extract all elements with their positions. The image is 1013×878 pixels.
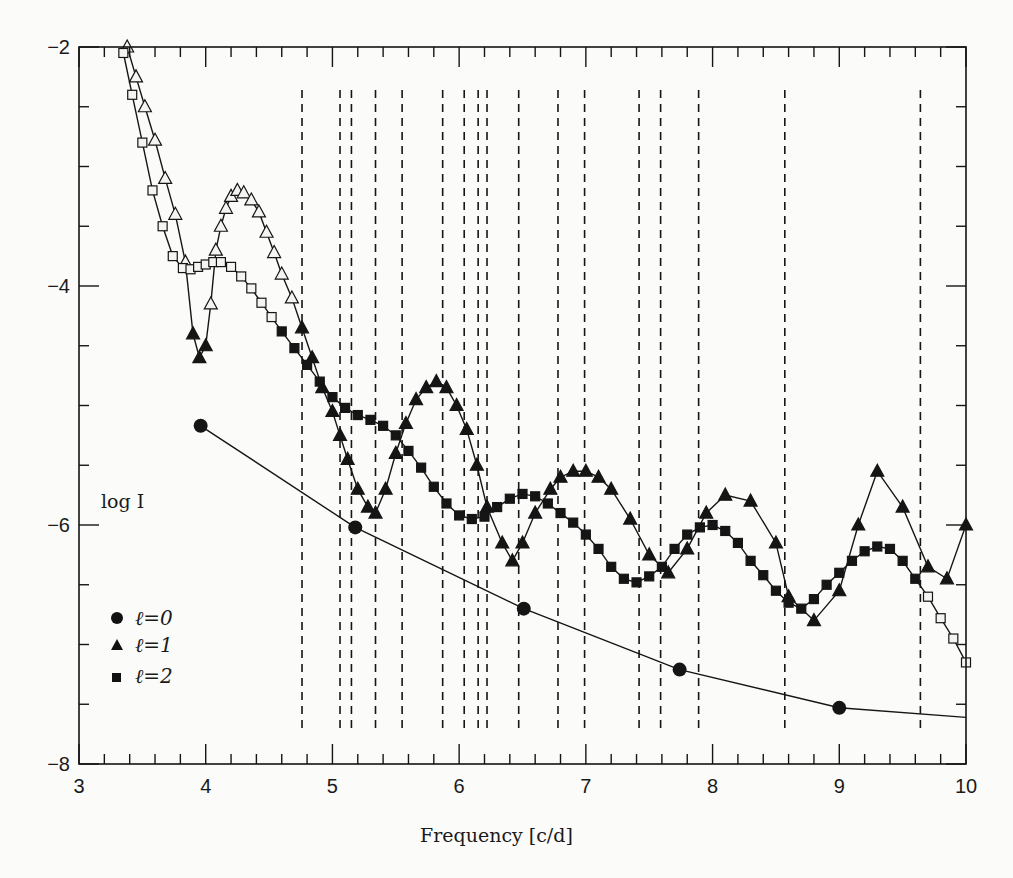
square-marker xyxy=(290,344,299,353)
square-marker xyxy=(237,272,246,281)
square-marker xyxy=(341,403,350,412)
square-marker xyxy=(505,494,514,503)
triangle-marker xyxy=(871,464,884,476)
plot-border xyxy=(79,47,966,764)
y-tick-label: −6 xyxy=(47,514,70,536)
square-marker xyxy=(455,511,464,520)
square-marker xyxy=(670,544,679,553)
triangle-marker xyxy=(852,518,865,530)
square-marker xyxy=(379,421,388,430)
triangle-marker xyxy=(361,500,374,512)
square-marker xyxy=(257,298,266,307)
square-marker xyxy=(216,258,225,267)
square-marker xyxy=(442,499,451,508)
square-marker xyxy=(119,48,128,57)
square-marker xyxy=(632,578,641,587)
triangle-marker xyxy=(470,458,483,470)
square-marker xyxy=(847,556,856,565)
triangle-marker xyxy=(159,171,172,183)
observed-frequency-lines xyxy=(302,90,920,732)
square-marker xyxy=(784,598,793,607)
square-marker xyxy=(594,544,603,553)
square-marker xyxy=(404,446,413,455)
square-marker xyxy=(619,574,628,583)
triangle-marker xyxy=(130,70,143,82)
circle-marker xyxy=(194,419,208,433)
y-tick-label: −8 xyxy=(47,753,70,775)
square-marker xyxy=(128,90,137,99)
square-marker xyxy=(417,463,426,472)
square-marker xyxy=(657,562,666,571)
x-tick-label: 10 xyxy=(955,775,977,797)
square-marker xyxy=(391,431,400,440)
square-marker xyxy=(885,544,894,553)
square-marker xyxy=(315,377,324,386)
triangle-marker xyxy=(379,482,392,494)
triangle-marker xyxy=(579,464,592,476)
circle-marker xyxy=(832,701,846,715)
circle-marker xyxy=(673,663,687,677)
triangle-marker xyxy=(554,470,567,482)
square-marker xyxy=(277,327,286,336)
triangle-marker xyxy=(481,500,494,512)
triangle-marker xyxy=(214,219,227,231)
triangle-marker xyxy=(719,488,732,500)
y-tick-label: −2 xyxy=(47,36,70,58)
axis-tick-labels: 345678910−8−6−4−2 xyxy=(47,36,977,797)
square-marker xyxy=(429,482,438,491)
circle-marker xyxy=(517,602,531,616)
triangle-marker xyxy=(389,446,402,458)
legend: ℓ=0 ℓ=1 ℓ=2 xyxy=(111,606,173,688)
series-layer xyxy=(119,40,973,717)
x-tick-label: 4 xyxy=(200,775,211,797)
axis-ticks xyxy=(79,47,966,764)
square-marker xyxy=(645,572,654,581)
legend-item-l2: ℓ=2 xyxy=(112,664,173,688)
triangle-marker xyxy=(149,133,162,145)
triangle-marker xyxy=(219,201,232,213)
legend-label: ℓ=0 xyxy=(135,606,173,630)
triangle-marker xyxy=(529,506,542,518)
triangle-marker xyxy=(204,297,217,309)
triangle-marker xyxy=(921,560,934,572)
triangle-marker xyxy=(296,321,309,333)
series-line xyxy=(127,47,966,621)
triangle-marker xyxy=(592,470,605,482)
square-marker xyxy=(328,393,337,402)
square-marker xyxy=(168,252,177,261)
legend-item-l0: ℓ=0 xyxy=(111,606,173,630)
legend-label: ℓ=1 xyxy=(135,633,173,657)
square-marker xyxy=(581,530,590,539)
x-tick-label: 8 xyxy=(707,775,718,797)
triangle-marker xyxy=(193,351,206,363)
square-marker xyxy=(721,526,730,535)
triangle-marker xyxy=(275,267,288,279)
square-marker xyxy=(353,411,362,420)
triangle-marker xyxy=(351,482,364,494)
square-marker xyxy=(683,530,692,539)
circle-marker-icon xyxy=(111,612,123,624)
square-marker xyxy=(759,571,768,580)
y-tick-label: −4 xyxy=(47,275,70,297)
triangle-marker xyxy=(567,464,580,476)
triangle-marker xyxy=(506,554,519,566)
triangle-marker xyxy=(199,339,212,351)
y-axis-title: log I xyxy=(101,490,144,512)
triangle-marker xyxy=(496,536,509,548)
triangle-marker xyxy=(450,399,463,411)
triangle-marker xyxy=(260,225,273,237)
x-tick-label: 5 xyxy=(327,775,338,797)
square-marker xyxy=(771,586,780,595)
square-marker xyxy=(227,262,236,271)
x-tick-label: 7 xyxy=(580,775,591,797)
square-marker xyxy=(493,503,502,512)
x-tick-label: 3 xyxy=(73,775,84,797)
triangle-marker xyxy=(833,584,846,596)
square-marker xyxy=(467,515,476,524)
triangle-marker xyxy=(169,207,182,219)
triangle-marker-icon xyxy=(111,639,123,650)
triangle-marker xyxy=(334,428,347,440)
square-marker xyxy=(158,222,167,231)
x-axis-title: Frequency [c/d] xyxy=(420,824,573,846)
square-marker xyxy=(607,562,616,571)
